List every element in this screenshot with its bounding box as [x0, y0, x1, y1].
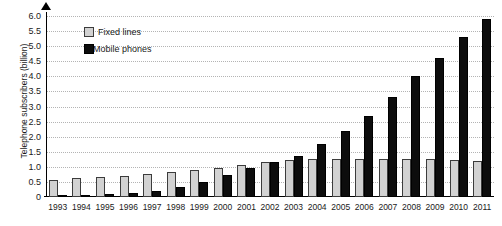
bar-mobile-phones: [176, 187, 185, 197]
bar-mobile-phones: [435, 58, 444, 197]
x-axis-tick-label: 2000: [213, 202, 232, 212]
bar-mobile-phones: [364, 116, 373, 197]
y-axis-tick-label: 2.5: [28, 117, 41, 127]
x-axis-tick-label: 2002: [261, 202, 280, 212]
bar-mobile-phones: [152, 191, 161, 197]
bar-fixed-lines: [332, 159, 341, 197]
bar-group: 2004: [305, 16, 329, 197]
x-axis-tick-label: 1999: [190, 202, 209, 212]
bar-group: 2009: [423, 16, 447, 197]
bar-mobile-phones: [411, 76, 420, 197]
black-square-icon: [84, 44, 94, 54]
bar-group: 1998: [164, 16, 188, 197]
bar-fixed-lines: [72, 178, 81, 197]
bar-fixed-lines: [285, 160, 294, 197]
bar-fixed-lines: [167, 172, 176, 197]
bar-group: 2000: [211, 16, 235, 197]
x-axis-tick-label: 1995: [95, 202, 114, 212]
bar-mobile-phones: [270, 162, 279, 197]
bar-mobile-phones: [459, 37, 468, 197]
bar-fixed-lines: [214, 168, 223, 197]
bar-group: 2007: [376, 16, 400, 197]
bar-fixed-lines: [261, 162, 270, 197]
y-axis-tick-label: 4.0: [28, 71, 41, 81]
chart-legend: Fixed lines Mobile phones: [84, 27, 152, 61]
bar-fixed-lines: [237, 165, 246, 197]
bar-mobile-phones: [388, 97, 397, 197]
light-gray-square-icon: [84, 27, 94, 37]
bar-mobile-phones: [482, 19, 491, 197]
x-axis-tick-label: 1993: [48, 202, 67, 212]
bar-fixed-lines: [426, 159, 435, 197]
x-axis-tick-label: 1997: [143, 202, 162, 212]
bar-fixed-lines: [96, 177, 105, 197]
bar-mobile-phones: [58, 195, 67, 197]
bar-group: 2008: [400, 16, 424, 197]
x-axis-tick-label: 2006: [355, 202, 374, 212]
bar-mobile-phones: [341, 131, 350, 197]
x-axis-tick-label: 2004: [308, 202, 327, 212]
bar-fixed-lines: [379, 159, 388, 197]
bar-group: 2002: [258, 16, 282, 197]
x-axis-tick-label: 2003: [284, 202, 303, 212]
x-axis-tick-label: 2001: [237, 202, 256, 212]
legend-item-mobile-phones: Mobile phones: [84, 44, 152, 54]
bar-group: 2005: [329, 16, 353, 197]
bar-group: 1999: [187, 16, 211, 197]
bar-mobile-phones: [199, 182, 208, 197]
bar-fixed-lines: [120, 176, 129, 197]
y-axis-tick-label: 1.0: [28, 162, 41, 172]
bar-fixed-lines: [355, 159, 364, 197]
bar-group: 2011: [470, 16, 494, 197]
x-axis-tick-label: 1998: [166, 202, 185, 212]
y-axis-tick-label: 4.5: [28, 56, 41, 66]
x-axis-tick-label: 2007: [378, 202, 397, 212]
x-axis-tick-label: 2008: [402, 202, 421, 212]
bar-mobile-phones: [105, 194, 114, 197]
bar-fixed-lines: [450, 160, 459, 197]
bar-mobile-phones: [246, 168, 255, 197]
bar-mobile-phones: [223, 175, 232, 197]
y-axis-tick-label: 0: [36, 192, 41, 202]
bar-mobile-phones: [317, 144, 326, 197]
x-axis-tick-label: 1994: [72, 202, 91, 212]
telephone-subscribers-bar-chart: Telephone subscribers (billion) 6.05.55.…: [0, 0, 502, 226]
y-axis-tick-label: 0.5: [28, 177, 41, 187]
bar-fixed-lines: [190, 170, 199, 197]
y-axis-tick-label: 6.0: [28, 11, 41, 21]
bar-mobile-phones: [129, 193, 138, 197]
bar-mobile-phones: [81, 195, 90, 197]
y-axis-tick-label: 5.5: [28, 26, 41, 36]
bar-fixed-lines: [143, 174, 152, 197]
triangle-up-icon: [41, 2, 51, 10]
bar-fixed-lines: [473, 161, 482, 197]
y-axis-tick-label: 3.0: [28, 102, 41, 112]
x-axis-tick-label: 2005: [331, 202, 350, 212]
bar-fixed-lines: [49, 180, 58, 197]
bar-mobile-phones: [294, 156, 303, 197]
legend-label-fixed-lines: Fixed lines: [98, 28, 141, 37]
bar-fixed-lines: [402, 159, 411, 197]
bar-fixed-lines: [308, 159, 317, 197]
bar-group: 1993: [46, 16, 70, 197]
x-axis-tick-label: 2011: [473, 202, 491, 212]
x-axis-tick-label: 2009: [426, 202, 445, 212]
y-axis-tick-label: 5.0: [28, 41, 41, 51]
x-axis-tick-label: 1996: [119, 202, 138, 212]
x-axis-tick-label: 2010: [449, 202, 468, 212]
y-axis-tick-label: 1.5: [28, 147, 41, 157]
legend-item-fixed-lines: Fixed lines: [84, 27, 152, 37]
bar-group: 2010: [447, 16, 471, 197]
y-axis-tick-label: 2.0: [28, 132, 41, 142]
bar-group: 2006: [353, 16, 377, 197]
y-axis-tick-label: 3.5: [28, 86, 41, 96]
bar-group: 2001: [235, 16, 259, 197]
bar-group: 2003: [282, 16, 306, 197]
legend-label-mobile-phones: Mobile phones: [93, 45, 152, 54]
